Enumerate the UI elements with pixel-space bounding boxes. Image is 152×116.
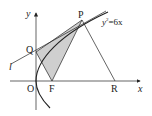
parabola-diagram: y x O F R P Q l y2=6x <box>0 0 152 116</box>
point-p-label: P <box>78 9 84 20</box>
point-r-label: R <box>111 83 118 94</box>
shaded-triangle-qfp <box>36 20 82 81</box>
point-q-label: Q <box>26 44 34 55</box>
point-f-label: F <box>49 83 55 94</box>
segment-pr <box>82 20 115 81</box>
origin-label: O <box>27 83 34 94</box>
curve-equation-label: y2=6x <box>101 17 123 27</box>
y-axis-label: y <box>25 8 31 19</box>
line-l-label: l <box>9 61 12 72</box>
x-axis-label: x <box>137 83 143 94</box>
eq-rest: =6x <box>109 17 124 27</box>
